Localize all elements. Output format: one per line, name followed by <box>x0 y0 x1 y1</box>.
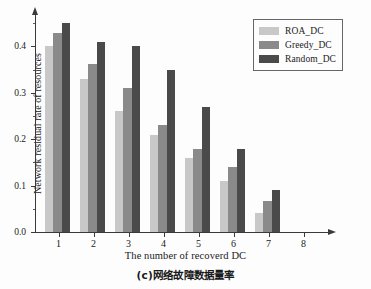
x-axis-tick <box>269 233 270 237</box>
legend-item[interactable]: Random_DC <box>259 52 336 66</box>
y-axis-minor-tick <box>33 70 36 71</box>
y-axis-tick-label: 0.3 <box>14 88 26 98</box>
bar <box>228 167 237 232</box>
y-axis-major-tick: 0.4 <box>31 46 35 47</box>
x-axis-tick <box>94 233 95 237</box>
bar <box>88 64 97 232</box>
bar <box>53 33 62 232</box>
y-axis-tick-label: 0.0 <box>14 227 26 237</box>
legend-swatch-icon <box>259 27 279 35</box>
x-axis-tick-label: 5 <box>196 238 201 249</box>
bar <box>150 135 159 232</box>
y-axis-minor-tick <box>33 116 36 117</box>
legend-item-label: Greedy_DC <box>285 40 332 50</box>
y-axis-major-tick: 0.2 <box>31 139 35 140</box>
bar <box>97 42 106 232</box>
figure-caption: (c)网络故障数据量率 <box>0 267 371 282</box>
x-axis-tick <box>164 233 165 237</box>
x-axis-tick-label: 1 <box>56 238 61 249</box>
bar <box>80 79 89 232</box>
x-axis-tick <box>304 233 305 237</box>
legend-swatch-icon <box>259 41 279 49</box>
y-axis-minor-tick <box>33 23 36 24</box>
x-axis-tick-label: 8 <box>301 238 306 249</box>
bar <box>193 149 202 232</box>
x-axis-tick-label: 4 <box>161 238 166 249</box>
bar <box>62 23 71 232</box>
bar <box>185 158 194 232</box>
x-axis-tick <box>199 233 200 237</box>
bar <box>132 46 141 232</box>
legend-item[interactable]: Greedy_DC <box>259 38 336 52</box>
y-axis-major-tick: 0.0 <box>31 232 35 233</box>
y-axis-major-tick: 0.1 <box>31 186 35 187</box>
bar <box>202 107 211 232</box>
x-axis-title: The number of recoverd DC <box>0 250 371 261</box>
x-axis-tick-label: 3 <box>126 238 131 249</box>
y-axis-line <box>35 14 36 233</box>
x-axis-line <box>35 232 329 233</box>
y-axis-arrow-icon <box>32 7 38 15</box>
legend: ROA_DCGreedy_DCRandom_DC <box>253 19 343 71</box>
legend-item[interactable]: ROA_DC <box>259 24 336 38</box>
legend-swatch-icon <box>259 55 279 63</box>
y-axis-tick-label: 0.1 <box>14 181 26 191</box>
x-axis-tick <box>129 233 130 237</box>
bar <box>45 46 54 232</box>
y-axis-minor-tick <box>33 162 36 163</box>
x-axis-tick-label: 6 <box>231 238 236 249</box>
legend-item-label: ROA_DC <box>285 26 324 36</box>
bar <box>272 190 281 232</box>
bar <box>255 213 264 232</box>
legend-item-label: Random_DC <box>285 54 336 64</box>
bar <box>115 111 124 232</box>
bar <box>123 88 132 232</box>
x-axis-tick-label: 2 <box>91 238 96 249</box>
bar-chart-figure: Network residual rate of resources 0.00.… <box>0 0 371 289</box>
bar <box>220 181 229 232</box>
x-axis-arrow-icon <box>328 229 336 235</box>
y-axis-tick-label: 0.2 <box>14 134 26 144</box>
bar <box>158 125 167 232</box>
y-axis-tick-label: 0.4 <box>14 41 26 51</box>
bar <box>237 149 246 232</box>
x-axis-tick <box>234 233 235 237</box>
bar <box>263 201 272 232</box>
y-axis-major-tick: 0.3 <box>31 93 35 94</box>
x-axis-tick-label: 7 <box>266 238 271 249</box>
y-axis-minor-tick <box>33 209 36 210</box>
bar <box>167 70 176 232</box>
x-axis-tick <box>59 233 60 237</box>
